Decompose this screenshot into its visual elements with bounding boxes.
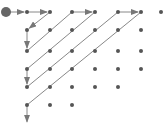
grid-dot bbox=[139, 67, 143, 71]
grid-dot bbox=[116, 28, 120, 32]
grid-dot bbox=[139, 28, 143, 32]
grid-dot bbox=[48, 85, 52, 89]
grid-dot bbox=[70, 10, 74, 14]
grid-dot bbox=[116, 49, 120, 53]
grid-dot bbox=[93, 10, 97, 14]
grid-dot bbox=[93, 28, 97, 32]
grid-dot bbox=[25, 10, 29, 14]
grid-dot bbox=[48, 103, 52, 107]
grid-dot bbox=[48, 49, 52, 53]
grid-dot bbox=[93, 49, 97, 53]
grid-dot bbox=[93, 67, 97, 71]
grid-dot bbox=[116, 10, 120, 14]
grid-dot bbox=[25, 28, 29, 32]
grid-dot bbox=[70, 103, 74, 107]
grid-dot bbox=[159, 10, 163, 14]
grid-dot bbox=[139, 49, 143, 53]
grid-dot bbox=[116, 67, 120, 71]
grid-dot bbox=[93, 85, 97, 89]
path-arrow bbox=[29, 12, 50, 28]
grid-dot bbox=[25, 67, 29, 71]
grid-dot bbox=[25, 49, 29, 53]
grid-dot bbox=[70, 49, 74, 53]
grid-dot bbox=[48, 10, 52, 14]
grid-dot bbox=[48, 28, 52, 32]
path-line bbox=[27, 12, 95, 69]
path-line bbox=[27, 12, 141, 105]
grid-dot bbox=[139, 10, 143, 14]
grid-dot bbox=[70, 28, 74, 32]
grid-dots bbox=[25, 10, 163, 107]
grid-dot bbox=[70, 85, 74, 89]
grid-dot bbox=[116, 85, 120, 89]
enumeration-diagram bbox=[0, 0, 165, 135]
grid-dot bbox=[25, 85, 29, 89]
grid-dot bbox=[25, 103, 29, 107]
grid-dot bbox=[48, 67, 52, 71]
start-dot bbox=[1, 7, 11, 17]
grid-dot bbox=[70, 67, 74, 71]
